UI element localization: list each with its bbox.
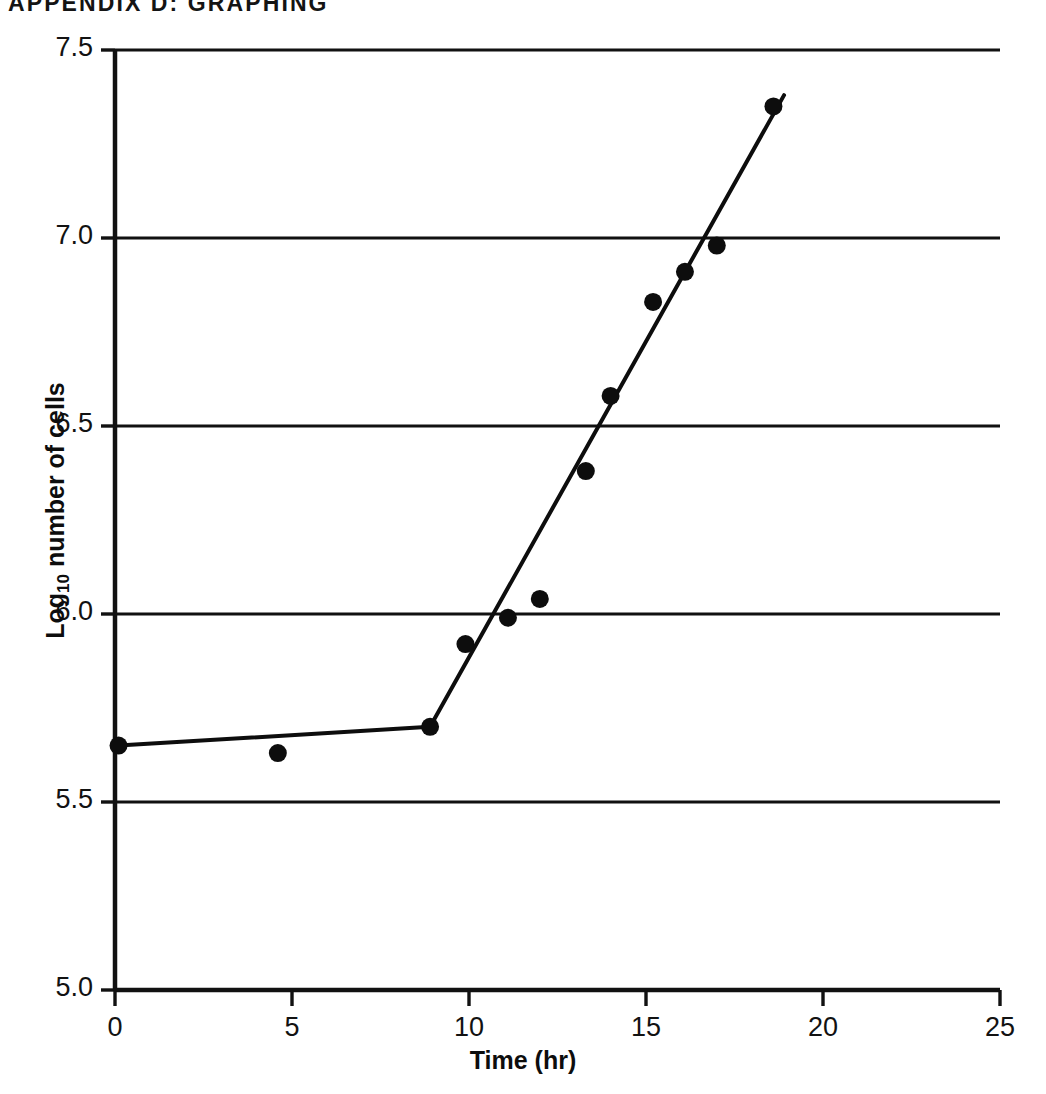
data-points — [110, 97, 783, 762]
y-tick-label: 7.5 — [23, 32, 93, 63]
data-point — [708, 237, 726, 255]
y-axis-title-subscript: 10 — [54, 574, 73, 593]
data-point — [421, 718, 439, 736]
data-point — [269, 744, 287, 762]
gridlines — [115, 50, 1000, 990]
fit-lines — [119, 95, 785, 745]
x-tick-label: 20 — [788, 1012, 858, 1043]
data-point — [676, 263, 694, 281]
y-tick-label: 5.0 — [23, 972, 93, 1003]
x-tick-label: 25 — [965, 1012, 1035, 1043]
data-point — [110, 737, 128, 755]
data-point — [764, 97, 782, 115]
y-axis-title-base: Log — [41, 593, 69, 639]
data-point — [499, 609, 517, 627]
x-axis-title: Time (hr) — [0, 1046, 1046, 1075]
growth-curve-figure: 5.05.56.06.57.07.5 0510152025 Time (hr) … — [0, 0, 1046, 1094]
data-point — [577, 462, 595, 480]
data-point — [644, 293, 662, 311]
x-tick-label: 10 — [434, 1012, 504, 1043]
x-tick-label: 5 — [257, 1012, 327, 1043]
data-point — [531, 590, 549, 608]
data-point — [602, 387, 620, 405]
fit-line-0 — [119, 727, 431, 746]
fit-line-1 — [430, 95, 784, 727]
y-axis-title-rest: number of cells — [41, 382, 69, 574]
y-axis-title: Log10 number of cells — [41, 211, 70, 811]
data-point — [456, 635, 474, 653]
x-axis-ticks — [115, 990, 1000, 1006]
plot-canvas — [0, 0, 1046, 1094]
x-tick-label: 0 — [80, 1012, 150, 1043]
x-tick-label: 15 — [611, 1012, 681, 1043]
axis-spines — [115, 50, 1000, 990]
